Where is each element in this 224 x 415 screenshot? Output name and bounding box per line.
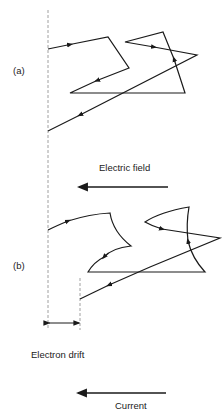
electric-field-label: Electric field <box>99 162 150 173</box>
current-label: Current <box>115 400 147 411</box>
path-b-with-field <box>48 207 220 299</box>
electron-drift-label: Electron drift <box>31 349 84 360</box>
panel-b-label: (b) <box>13 260 25 271</box>
panel-a-label: (a) <box>13 65 25 76</box>
path-a-no-field <box>48 32 197 131</box>
